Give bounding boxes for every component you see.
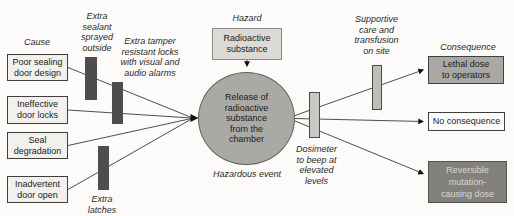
bowtie-diagram: Cause Hazard Hazardous event Consequence… [0, 0, 514, 216]
cause-box-ineffective-locks: Ineffective door locks [7, 96, 68, 124]
consequence-box-lethal-dose: Lethal dose to operators [428, 56, 504, 84]
cause-box-poor-sealing: Poor sealing door design [7, 54, 68, 81]
barrier-bar-dosimeter [309, 92, 320, 138]
hazard-box: Radioactive substance [212, 28, 282, 60]
consequence-box-no-consequence: No consequence [428, 112, 505, 131]
consequence-section-label: Consequence [435, 42, 501, 53]
barrier-label-supportive-care: Supportive care and transfusion on site [349, 14, 404, 56]
cause-box-seal-degradation: Seal degradation [7, 132, 68, 159]
barrier-bar-tamper-locks [112, 82, 123, 124]
hazardous-event-label: Hazardous event [202, 169, 292, 180]
barrier-bar-extra-sealant [85, 57, 97, 100]
cause-section-label: Cause [12, 37, 62, 48]
hazardous-event-circle: Release of radioactive substance from th… [198, 72, 295, 165]
barrier-bar-supportive-care [372, 65, 382, 110]
barrier-label-extra-latches: Extra latches [81, 194, 123, 215]
barrier-label-tamper-locks: Extra tamper resistant locks with visual… [113, 36, 187, 78]
barrier-label-dosimeter: Dosimeter to beep at elevated levels [289, 144, 344, 186]
barrier-bar-extra-latches [98, 146, 109, 190]
consequence-box-reversible-mutation: Reversible mutation- causing dose [428, 161, 507, 203]
cause-box-inadvertent-door: Inadvertent door open [7, 176, 68, 203]
hazard-label: Hazard [217, 13, 277, 24]
